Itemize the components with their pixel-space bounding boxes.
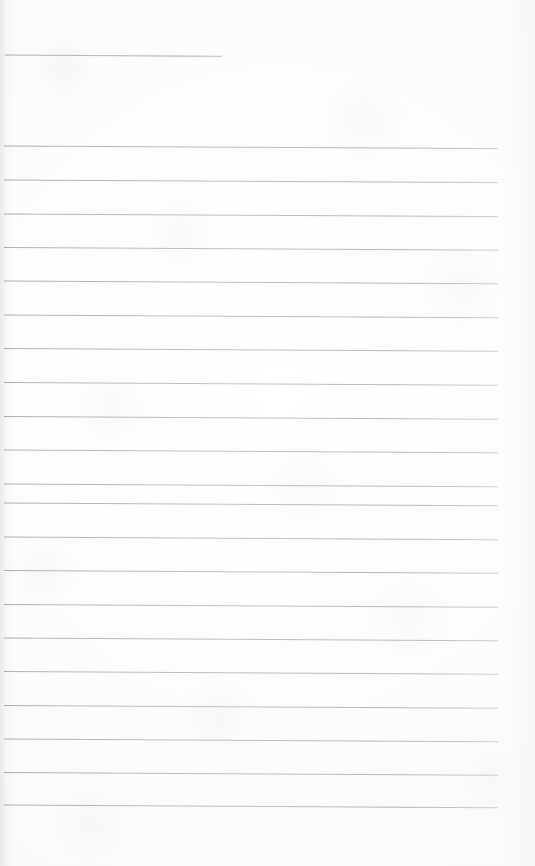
rules-group xyxy=(4,55,498,808)
ruled-lines-svg xyxy=(0,0,535,866)
ruled-line xyxy=(4,281,498,284)
ruled-lines-layer xyxy=(0,0,535,866)
ruled-line xyxy=(4,571,498,574)
ruled-line xyxy=(4,383,498,386)
ruled-line xyxy=(4,248,498,251)
ruled-line xyxy=(4,805,498,808)
ruled-line xyxy=(4,773,498,776)
scanned-page xyxy=(0,0,535,866)
ruled-line xyxy=(4,672,498,675)
ruled-line xyxy=(4,180,498,183)
ruled-line xyxy=(4,739,498,742)
ruled-line xyxy=(4,638,498,641)
ruled-line xyxy=(4,706,498,709)
ruled-line xyxy=(4,503,498,506)
ruled-line xyxy=(4,484,498,487)
ruled-line xyxy=(4,349,498,352)
ruled-line xyxy=(4,450,498,453)
ruled-line xyxy=(4,537,498,540)
ruled-line xyxy=(4,146,498,149)
ruled-line xyxy=(5,55,222,56)
ruled-line xyxy=(4,417,498,420)
ruled-line xyxy=(4,605,498,608)
ruled-line xyxy=(4,315,498,318)
ruled-line xyxy=(4,214,498,217)
